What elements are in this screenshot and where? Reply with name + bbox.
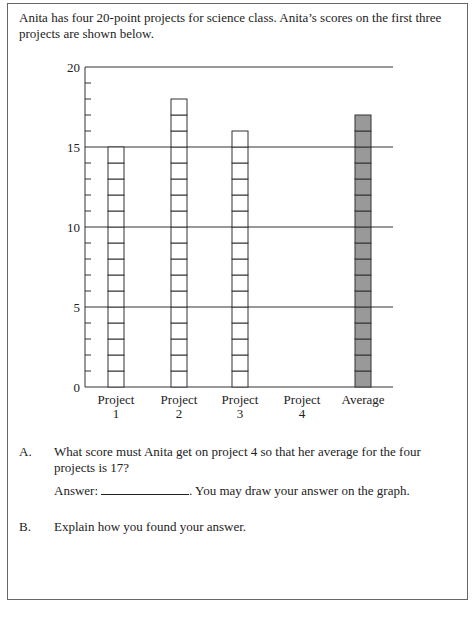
answer-line: Answer:. You may draw your answer on the… xyxy=(54,483,410,499)
question-a-text: What score must Anita get on project 4 s… xyxy=(54,444,459,476)
bar-block xyxy=(232,291,248,307)
bar-block xyxy=(355,163,371,179)
bar-block xyxy=(232,227,248,243)
x-tick-label: 4 xyxy=(299,406,306,421)
bar-block xyxy=(232,259,248,275)
bar-block xyxy=(355,179,371,195)
bar-block xyxy=(355,275,371,291)
bar-block xyxy=(232,179,248,195)
answer-label: Answer: xyxy=(54,483,98,498)
bar-block xyxy=(108,227,124,243)
bar-block xyxy=(171,371,187,387)
x-tick-label: Project xyxy=(284,392,321,407)
bar-block xyxy=(171,147,187,163)
bar-block xyxy=(171,195,187,211)
x-tick-label: Project xyxy=(98,392,135,407)
bar-block xyxy=(171,291,187,307)
y-tick-label: 10 xyxy=(67,220,80,235)
bar-block xyxy=(108,147,124,163)
bar-block xyxy=(171,99,187,115)
bar-block xyxy=(355,115,371,131)
y-tick-label: 20 xyxy=(67,60,80,75)
bar-block xyxy=(232,243,248,259)
bar-block xyxy=(108,163,124,179)
bar-block xyxy=(171,339,187,355)
bar-block xyxy=(355,131,371,147)
bar-block xyxy=(355,291,371,307)
x-tick-label: 2 xyxy=(176,406,183,421)
bar-block xyxy=(108,259,124,275)
bar-block xyxy=(232,211,248,227)
bar-block xyxy=(108,179,124,195)
answer-suffix: . You may draw your answer on the graph. xyxy=(189,483,410,498)
bar-block xyxy=(232,323,248,339)
x-tick-label: Average xyxy=(341,392,384,407)
answer-blank[interactable] xyxy=(101,483,189,495)
x-tick-label: 3 xyxy=(237,406,244,421)
bar-block xyxy=(355,227,371,243)
bar-block xyxy=(108,243,124,259)
bar-block xyxy=(232,355,248,371)
bar-block xyxy=(355,307,371,323)
bar-chart: 05101520Project1Project2Project3Project4… xyxy=(0,0,475,440)
bar-block xyxy=(171,211,187,227)
bar-block xyxy=(108,195,124,211)
bar-block xyxy=(171,163,187,179)
question-b-text: Explain how you found your answer. xyxy=(54,519,459,535)
y-tick-label: 15 xyxy=(67,140,80,155)
bar-block xyxy=(108,339,124,355)
bar-block xyxy=(108,275,124,291)
bar-block xyxy=(232,339,248,355)
bar-block xyxy=(108,323,124,339)
question-a: A. What score must Anita get on project … xyxy=(19,444,459,476)
bar-block xyxy=(232,163,248,179)
y-tick-label: 5 xyxy=(74,300,81,315)
bar-block xyxy=(355,243,371,259)
bar-block xyxy=(171,275,187,291)
question-b-letter: B. xyxy=(19,519,31,535)
x-tick-label: Project xyxy=(161,392,198,407)
bar-block xyxy=(108,211,124,227)
bar-block xyxy=(232,131,248,147)
bar-block xyxy=(355,371,371,387)
bar-block xyxy=(355,323,371,339)
bar-block xyxy=(108,355,124,371)
bar-block xyxy=(171,323,187,339)
bar-block xyxy=(232,307,248,323)
question-a-letter: A. xyxy=(19,444,32,460)
bar-block xyxy=(355,211,371,227)
question-b: B. Explain how you found your answer. xyxy=(19,519,459,535)
bar-block xyxy=(232,195,248,211)
x-tick-label: Project xyxy=(222,392,259,407)
bar-block xyxy=(171,243,187,259)
bar-block xyxy=(232,147,248,163)
bar-block xyxy=(171,179,187,195)
bar-block xyxy=(108,371,124,387)
bar-block xyxy=(355,195,371,211)
bar-block xyxy=(171,355,187,371)
bar-block xyxy=(232,275,248,291)
bar-block xyxy=(171,131,187,147)
bar-block xyxy=(171,115,187,131)
x-tick-label: 1 xyxy=(113,406,120,421)
bar-block xyxy=(232,371,248,387)
bar-block xyxy=(355,339,371,355)
bar-block xyxy=(108,291,124,307)
bar-block xyxy=(355,259,371,275)
bar-block xyxy=(171,307,187,323)
bar-block xyxy=(355,355,371,371)
y-tick-label: 0 xyxy=(74,380,81,395)
bar-block xyxy=(171,227,187,243)
bar-block xyxy=(171,259,187,275)
bar-block xyxy=(355,147,371,163)
bar-block xyxy=(108,307,124,323)
